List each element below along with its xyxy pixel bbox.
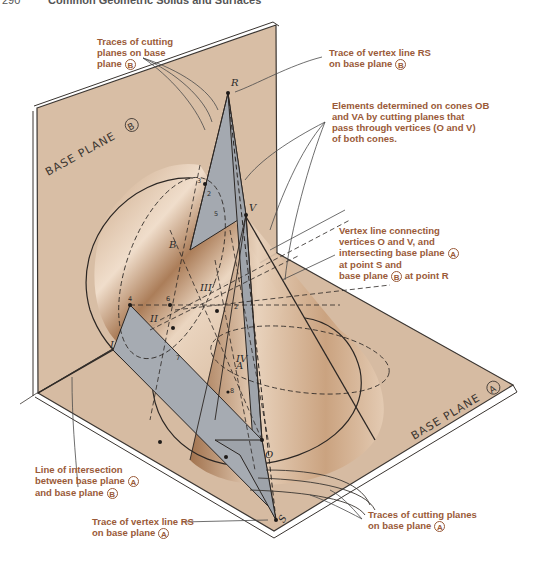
callout-line-of-intersection: Line of intersection between base planeA… xyxy=(35,464,139,499)
point-5-label: 5 xyxy=(214,210,218,218)
point-b-label: B xyxy=(168,239,176,250)
plane-b-marker: B xyxy=(125,59,136,70)
point-r-label: R xyxy=(230,77,239,88)
point-2b-label: 2 xyxy=(234,303,238,311)
plane-a-marker: A xyxy=(128,476,139,487)
point-7-label: 7 xyxy=(176,354,180,362)
callout-vertex-line: Vertex line connecting vertices O and V,… xyxy=(339,225,459,282)
plane-b-marker: B xyxy=(395,59,406,70)
callout-trace-rs-on-plane-a: Trace of vertex line RS on base planeA xyxy=(92,516,194,539)
callout-elements-on-cones: Elements determined on cones OB and VA b… xyxy=(332,100,489,144)
point-o-label: O xyxy=(265,449,273,460)
plane-b-marker: B xyxy=(107,488,118,499)
point-6-label: 6 xyxy=(166,295,170,303)
point-3-label: 3 xyxy=(197,177,201,185)
plane-a-marker: A xyxy=(158,528,169,539)
callout-traces-on-plane-b: Traces of cutting planes on base planeB xyxy=(97,36,173,70)
plane-a-marker: A xyxy=(434,521,445,532)
callout-traces-on-plane-a: Traces of cutting planes on base planeA xyxy=(368,509,477,532)
callout-trace-rs-on-plane-b: Trace of vertex line RS on base planeB xyxy=(329,47,431,70)
point-ii-label: II xyxy=(149,313,159,324)
point-2-label: 2 xyxy=(207,190,211,198)
point-iv-label: IV xyxy=(235,353,249,364)
plane-b-marker: B xyxy=(391,271,402,282)
plane-a-marker: A xyxy=(448,248,459,259)
point-4-label: 4 xyxy=(128,295,132,303)
point-8-label: 8 xyxy=(230,387,234,395)
point-iii-label: III xyxy=(199,282,213,293)
